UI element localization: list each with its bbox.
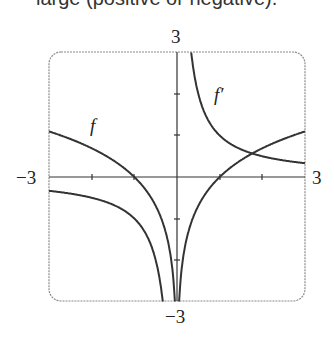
y-min-label: −3: [165, 306, 185, 327]
x-min-label: −3: [16, 167, 36, 188]
label-f: f: [90, 115, 98, 136]
y-max-label: 3: [171, 26, 181, 47]
label-f-prime: f′: [214, 84, 224, 105]
x-max-label: 3: [312, 167, 322, 188]
graph: 3 −3 −3 3 f f′: [0, 0, 334, 337]
